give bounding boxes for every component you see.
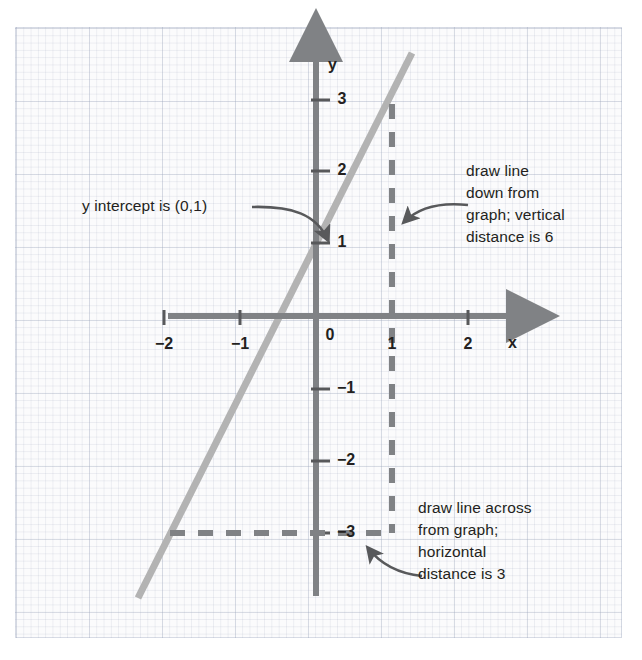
- y-axis-label: y: [328, 56, 337, 74]
- x-axis-label: x: [508, 334, 517, 352]
- x-tick-label--2: −2: [148, 335, 180, 353]
- annotation-horizontal-distance: draw line across from graph; horizontal …: [418, 497, 532, 585]
- x-tick-label-2: 2: [460, 335, 476, 353]
- y-tick-label--3: −3: [330, 523, 362, 541]
- x-tick-label-1: 1: [384, 335, 400, 353]
- annotation-vertical-distance: draw line down from graph; vertical dist…: [466, 160, 565, 248]
- horizontal-note-arrow: [368, 548, 422, 576]
- y-tick-label--2: −2: [330, 451, 362, 469]
- y-tick-label--1: −1: [330, 379, 362, 397]
- vertical-note-arrow: [404, 204, 468, 222]
- annotation-y-intercept: y intercept is (0,1): [82, 195, 207, 217]
- y-tick-label-2: 2: [334, 161, 350, 179]
- origin-label: 0: [320, 326, 340, 344]
- x-tick-label--1: −1: [224, 335, 256, 353]
- graph-figure: y x 0 −2 −1 1 2 3 2 1 −1 −2 −3 y interce…: [0, 0, 642, 660]
- function-line: [138, 53, 412, 598]
- y-tick-label-1: 1: [334, 233, 350, 251]
- y-tick-label-3: 3: [334, 90, 350, 108]
